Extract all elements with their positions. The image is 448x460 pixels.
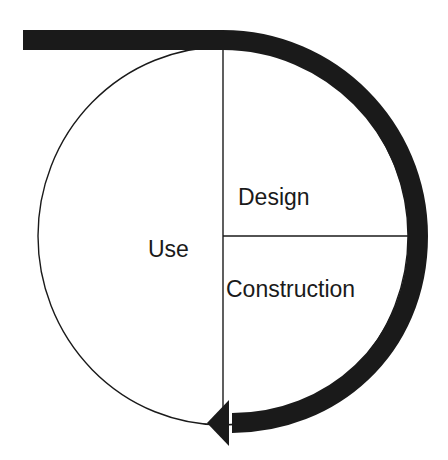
label-design: Design	[238, 186, 310, 209]
label-construction: Construction	[226, 278, 355, 301]
process-arrow-path	[23, 40, 418, 423]
arrowhead-icon	[207, 400, 229, 446]
lifecycle-diagram: Design Construction Use	[0, 0, 448, 460]
label-use: Use	[148, 238, 189, 261]
